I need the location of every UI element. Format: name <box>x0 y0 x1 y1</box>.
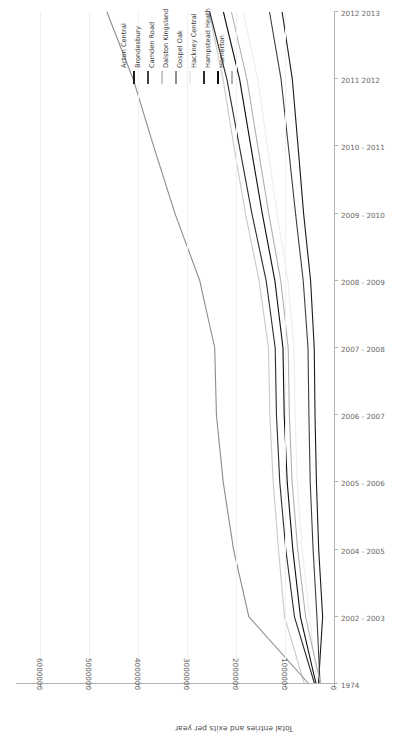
x-tick-label: 2012 2013 <box>341 9 380 18</box>
legend-swatch <box>175 71 177 84</box>
x-tick <box>334 280 338 281</box>
plot-area <box>16 12 334 684</box>
y-tick-label: 3000000 <box>182 650 191 690</box>
legend-label: Dalston Kingsland <box>162 9 170 68</box>
y-tick-label: 2000000 <box>231 650 240 690</box>
x-tick <box>334 78 338 79</box>
legend-swatch <box>133 71 135 84</box>
y-tick-label: 6000000 <box>35 650 44 690</box>
x-tick <box>334 347 338 348</box>
series-lines <box>16 12 334 684</box>
y-tick-label: 4000000 <box>133 650 142 690</box>
x-axis-line <box>334 12 335 684</box>
x-tick <box>334 549 338 550</box>
legend-swatch <box>203 71 205 84</box>
gridline-y <box>40 12 41 684</box>
legend-label: Camden Road <box>148 22 156 68</box>
gridline-y <box>187 12 188 684</box>
gridline-y <box>236 12 237 684</box>
x-tick-label: 2009 - 2010 <box>341 211 385 220</box>
legend-label: Hampstead Heath <box>204 8 212 68</box>
legend-swatch <box>147 71 149 84</box>
x-tick <box>334 11 338 12</box>
x-tick-label: 2005 - 2006 <box>341 479 385 488</box>
legend-item[interactable]: Homerton <box>226 4 239 84</box>
legend-swatch <box>231 71 233 84</box>
x-tick-label: 2002 - 2003 <box>341 614 385 623</box>
x-tick <box>334 145 338 146</box>
x-tick-label: 2011 2012 <box>341 76 380 85</box>
x-tick-label: 2006 - 2007 <box>341 412 385 421</box>
legend-label: Hackney Central <box>190 13 198 68</box>
y-tick-label: 1000000 <box>280 650 289 690</box>
legend-label: Brondesbury <box>134 26 142 68</box>
gridline-y <box>89 12 90 684</box>
gridline-y <box>138 12 139 684</box>
legend-swatch <box>217 71 219 84</box>
x-tick-label: 2008 - 2009 <box>341 278 385 287</box>
x-tick <box>334 213 338 214</box>
legend-swatch <box>161 71 163 84</box>
legend-label: Homerton <box>218 35 226 68</box>
legend-label: Gospel Oak <box>176 30 184 68</box>
series-line <box>107 12 309 684</box>
y-axis-title: Total entries and exits per year <box>175 724 293 733</box>
series-line <box>243 12 317 684</box>
y-tick-label: 5000000 <box>84 650 93 690</box>
x-tick <box>334 414 338 415</box>
y-tick-label: 0 <box>329 650 338 690</box>
legend-swatch <box>189 71 191 84</box>
chart-legend: Acton CentralBrondesburyCamden RoadDalst… <box>128 4 258 84</box>
x-tick-label: 1974 <box>341 681 359 690</box>
x-tick <box>334 616 338 617</box>
x-tick-label: 2007 - 2008 <box>341 345 385 354</box>
x-tick <box>334 481 338 482</box>
x-tick-label: 2004 - 2005 <box>341 547 385 556</box>
legend-label: Acton Central <box>120 23 128 68</box>
gridline-y <box>285 12 286 684</box>
x-tick-label: 2010 - 2011 <box>341 143 385 152</box>
